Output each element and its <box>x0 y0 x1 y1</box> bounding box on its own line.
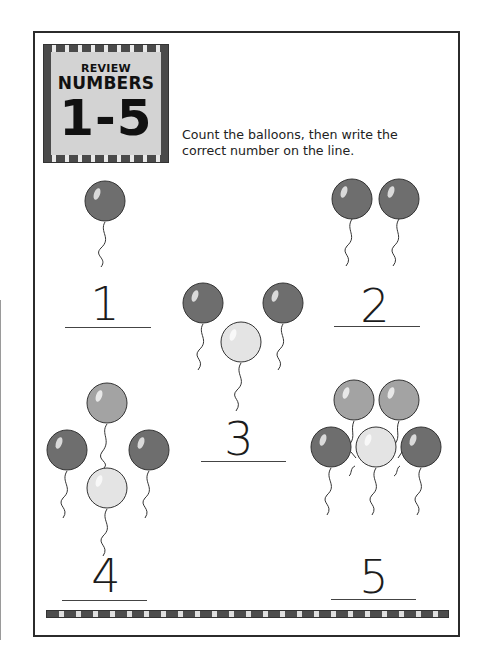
answer-line-4[interactable] <box>62 600 147 601</box>
answer-2: 2 <box>355 283 395 329</box>
instructions-text: Count the balloons, then write the corre… <box>182 127 442 159</box>
answer-line-5[interactable] <box>331 599 416 600</box>
title-range: 1-5 <box>51 88 161 148</box>
answer-line-1[interactable] <box>65 327 151 328</box>
answer-1: 1 <box>85 281 125 327</box>
answer-line-3[interactable] <box>201 461 286 462</box>
page-edge-line <box>0 300 1 640</box>
title-badge: REVIEW NUMBERS 1-5 <box>43 44 169 163</box>
answer-line-2[interactable] <box>334 326 420 327</box>
checkered-border-strip <box>46 610 449 618</box>
answer-5: 5 <box>354 554 394 600</box>
answer-3: 3 <box>219 416 259 462</box>
answer-4: 4 <box>86 553 126 599</box>
